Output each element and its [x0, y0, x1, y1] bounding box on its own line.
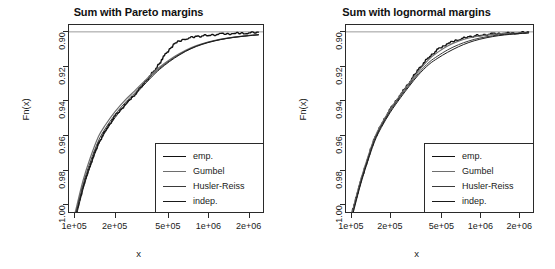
x-tick-label: 1e+06 — [186, 221, 230, 231]
x-tick-mark — [208, 213, 209, 218]
legend-label-gumbel: Gumbel — [193, 167, 225, 176]
legend-label-indep: indep. — [462, 197, 487, 206]
legend-key-gumbel — [163, 171, 186, 172]
legend-key-emp — [432, 156, 455, 157]
legend-item-emp: emp. — [156, 149, 263, 164]
y-tick-label: 0.90 — [334, 30, 344, 52]
legend-item-indep: indep. — [425, 194, 533, 209]
y-axis-label-right: Fn(x) — [291, 104, 313, 115]
legend-label-husler-reiss: Husler-Reiss — [462, 182, 514, 191]
legend-item-husler-reiss: Husler-Reiss — [156, 179, 263, 194]
x-tick-mark — [441, 213, 442, 218]
x-tick-label: 2e+06 — [497, 221, 541, 231]
x-tick-label: 1e+05 — [52, 221, 96, 231]
legend-key-indep — [432, 201, 455, 202]
legend-label-gumbel: Gumbel — [462, 167, 494, 176]
legend-key-indep — [163, 201, 186, 202]
y-tick-label: 0.96 — [57, 134, 67, 156]
legend-item-gumbel: Gumbel — [156, 164, 263, 179]
panel-title-pareto: Sum with Pareto margins — [0, 6, 277, 18]
legend-item-indep: indep. — [156, 194, 263, 209]
figure-container: Sum with Pareto margins Fn(x) emp. Gumbe… — [0, 0, 555, 269]
legend-key-gumbel — [432, 171, 455, 172]
panel-pareto: Sum with Pareto margins Fn(x) emp. Gumbe… — [0, 0, 277, 269]
x-tick-label: 2e+05 — [93, 221, 137, 231]
x-tick-mark — [168, 213, 169, 218]
x-tick-mark — [519, 213, 520, 218]
legend-key-husler-reiss — [432, 186, 455, 187]
y-tick-label: 0.98 — [57, 169, 67, 191]
legend-pareto: emp. Gumbel Husler-Reiss indep. — [155, 143, 264, 213]
x-tick-mark — [74, 213, 75, 218]
x-axis-label-left: x — [0, 248, 277, 259]
legend-key-emp — [163, 156, 186, 157]
x-tick-label: 2e+05 — [368, 221, 412, 231]
x-tick-label: 1e+06 — [458, 221, 502, 231]
x-tick-label: 5e+05 — [146, 221, 190, 231]
x-tick-mark — [390, 213, 391, 218]
x-axis-label-right: x — [278, 248, 555, 259]
x-tick-label: 1e+05 — [329, 221, 373, 231]
x-tick-mark — [115, 213, 116, 218]
x-tick-mark — [351, 213, 352, 218]
x-tick-label: 2e+06 — [227, 221, 271, 231]
legend-label-emp: emp. — [462, 152, 482, 161]
legend-item-emp: emp. — [425, 149, 533, 164]
panel-lognormal: Sum with lognormal margins Fn(x) emp. Gu… — [278, 0, 555, 269]
x-tick-label: 5e+05 — [419, 221, 463, 231]
y-tick-label: 0.96 — [334, 134, 344, 156]
y-tick-label: 0.94 — [334, 99, 344, 121]
legend-lognormal: emp. Gumbel Husler-Reiss indep. — [424, 143, 534, 213]
panel-title-lognormal: Sum with lognormal margins — [278, 6, 555, 18]
legend-label-indep: indep. — [193, 197, 218, 206]
legend-item-gumbel: Gumbel — [425, 164, 533, 179]
y-tick-label: 0.98 — [334, 169, 344, 191]
y-tick-label: 0.92 — [57, 65, 67, 87]
legend-item-husler-reiss: Husler-Reiss — [425, 179, 533, 194]
legend-label-emp: emp. — [193, 152, 213, 161]
y-tick-label: 0.94 — [57, 99, 67, 121]
y-tick-label: 0.90 — [57, 30, 67, 52]
legend-label-husler-reiss: Husler-Reiss — [193, 182, 245, 191]
y-axis-label-left: Fn(x) — [14, 104, 36, 115]
x-tick-mark — [249, 213, 250, 218]
legend-key-husler-reiss — [163, 186, 186, 187]
y-tick-label: 0.92 — [334, 65, 344, 87]
x-tick-mark — [480, 213, 481, 218]
